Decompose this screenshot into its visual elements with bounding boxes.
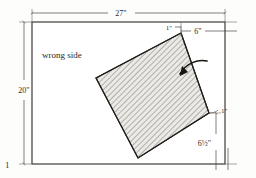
dimension-label-top-offset-left: 1" — [166, 24, 173, 32]
dimension-label-left-height: 20" — [18, 86, 29, 95]
dimension-label-right-offset-bottom: 6½" — [198, 139, 211, 148]
wrong-side-label: wrong side — [42, 50, 82, 60]
figure-page: 27" 20" wrong side 1" 6" 1" — [0, 0, 256, 178]
dimension-label-right-offset-top: 1" — [221, 107, 228, 115]
figure-number: 1 — [5, 160, 10, 170]
dimension-label-top-width: 27" — [115, 9, 126, 18]
technical-diagram: 27" 20" wrong side 1" 6" 1" — [0, 0, 256, 178]
dimension-label-top-offset-right: 6" — [194, 27, 201, 36]
